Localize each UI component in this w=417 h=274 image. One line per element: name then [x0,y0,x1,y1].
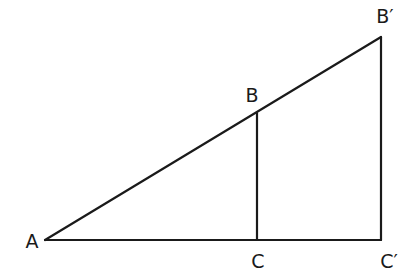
label-b-prime: B′ [376,5,393,27]
label-b: B [245,84,258,106]
label-a: A [26,230,39,252]
label-c: C [251,250,264,272]
similar-triangles-diagram: A B C B′ C′ [0,0,417,274]
label-c-prime: C′ [380,250,398,272]
hypotenuse-ab-prime [45,37,381,240]
